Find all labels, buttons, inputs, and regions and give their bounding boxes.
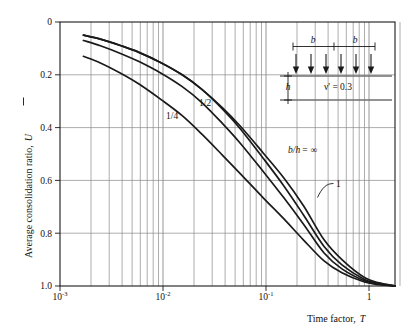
xtick-label-1: 10-2 — [156, 290, 171, 302]
y-axis-title-symbol: U — [23, 133, 34, 141]
curve-label-quarter: 1/4 — [166, 111, 178, 121]
poisson-ratio-label: ν' = 0.3 — [324, 82, 352, 92]
dimension-label-left: b — [311, 35, 316, 45]
consolidation-ratio-chart: 0 0.2 0.4 0.6 0.8 1.0 10-3 10-2 10-1 1 T… — [0, 0, 412, 330]
curve-label-bh-infinity: b/h=∞ — [288, 145, 318, 155]
curve-label-one: 1 — [336, 179, 341, 189]
xtick-1-base: 10 — [156, 292, 166, 302]
xtick-label-0: 10-3 — [53, 290, 68, 302]
svg-text:10-3: 10-3 — [53, 290, 68, 302]
xtick-label-2: 10-1 — [259, 290, 274, 302]
ytick-label-4: 0.8 — [40, 229, 52, 239]
x-axis-ticks — [60, 286, 369, 291]
bh-ratio-text: b/h — [288, 145, 300, 155]
svg-text:b/h=∞: b/h=∞ — [288, 145, 318, 155]
y-axis-title: Average consolidation ratio,U — [23, 98, 34, 259]
ytick-label-2: 0.4 — [40, 123, 52, 133]
xtick-0-base: 10 — [53, 292, 63, 302]
xtick-label-3: 1 — [367, 292, 372, 302]
xtick-2-exp: -1 — [268, 290, 273, 297]
ytick-label-3: 0.6 — [40, 176, 52, 186]
x-axis-title: Time factor,T — [307, 313, 367, 324]
ytick-label-5: 1.0 — [40, 281, 52, 291]
xtick-0-exp: -3 — [62, 290, 67, 297]
y-axis-ticks — [55, 22, 60, 286]
svg-text:Average consolidation ratio,U: Average consolidation ratio,U — [23, 133, 34, 258]
ytick-label-1: 0.2 — [40, 70, 52, 80]
xtick-1-exp: -2 — [165, 290, 170, 297]
xtick-2-base: 10 — [259, 292, 269, 302]
curve-label-half: 1/2 — [199, 98, 211, 108]
ytick-label-0: 0 — [47, 17, 52, 27]
depth-label: h — [286, 82, 291, 92]
svg-text:Time factor,T: Time factor,T — [307, 313, 367, 324]
dimension-label-right: b — [353, 35, 358, 45]
y-axis-title-main: Average consolidation ratio, — [23, 145, 34, 258]
chart-svg: 0 0.2 0.4 0.6 0.8 1.0 10-3 10-2 10-1 1 T… — [0, 0, 412, 330]
svg-text:10-2: 10-2 — [156, 290, 171, 302]
svg-text:10-1: 10-1 — [259, 290, 274, 302]
infinity-symbol: ∞ — [311, 145, 318, 155]
plot-background — [60, 22, 395, 286]
x-axis-title-main: Time factor, — [307, 313, 356, 324]
x-axis-title-symbol: T — [360, 313, 367, 324]
